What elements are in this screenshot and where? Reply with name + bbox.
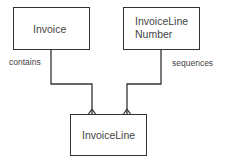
entity-label: Invoice <box>33 23 66 36</box>
entity-label-line-1: InvoiceLine <box>135 15 188 28</box>
relationship-label-contains: contains <box>9 57 41 67</box>
relationship-label-sequences: sequences <box>172 58 213 68</box>
contains-connector <box>51 49 96 114</box>
entity-invoiceline-number[interactable]: InvoiceLine Number <box>123 7 200 50</box>
entity-label: InvoiceLine <box>82 129 135 142</box>
entity-invoice[interactable]: Invoice <box>13 7 90 50</box>
entity-label-line-2: Number <box>135 28 172 41</box>
entity-invoiceline[interactable]: InvoiceLine <box>70 114 147 156</box>
sequences-connector <box>124 49 162 114</box>
